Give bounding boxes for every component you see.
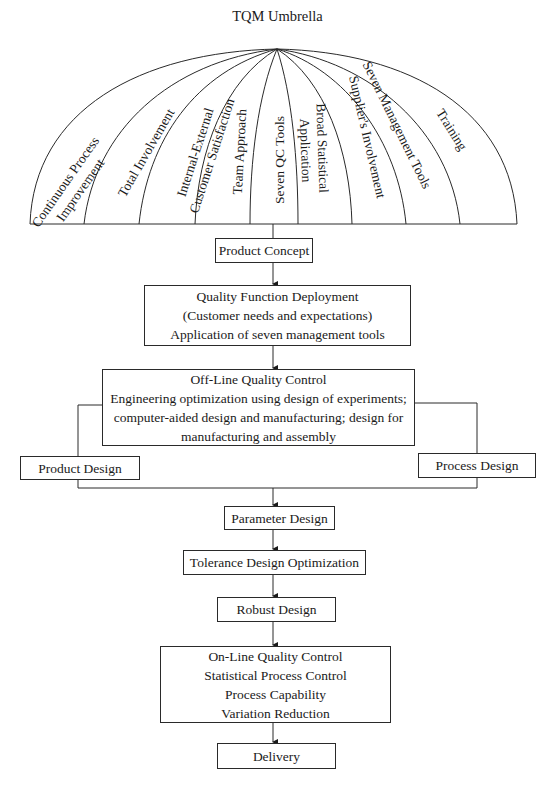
parameter-design-label: Parameter Design	[231, 509, 327, 528]
rib-label: Training	[433, 106, 470, 153]
robust-design-box: Robust Design	[217, 597, 336, 622]
offline-line: computer-aided design and manufacturing;…	[114, 408, 404, 427]
offline-quality-control-box: Off-Line Quality Control Engineering opt…	[102, 369, 415, 446]
svg-text:Broad Statistical Appl: Broad Statistical Application	[296, 103, 331, 197]
tolerance-design-label: Tolerance Design Optimization	[190, 553, 359, 572]
delivery-box: Delivery	[217, 743, 336, 769]
tolerance-design-box: Tolerance Design Optimization	[183, 550, 366, 575]
rib-label: Team Approach	[230, 108, 249, 195]
svg-text:Continuous Process Imp: Continuous Process Improvement	[29, 131, 118, 240]
product-concept-box: Product Concept	[215, 238, 313, 263]
rib-label: Seven QC Tools	[272, 116, 287, 204]
online-quality-control-box: On-Line Quality Control Statistical Proc…	[160, 646, 391, 723]
product-design-label: Product Design	[38, 459, 122, 478]
svg-text:Seven QC Tools: Seven QC Tools	[272, 116, 287, 204]
offline-line: Engineering optimization using design of…	[110, 389, 407, 408]
qfd-line: Application of seven management tools	[170, 325, 384, 344]
delivery-label: Delivery	[253, 747, 300, 766]
process-design-label: Process Design	[436, 456, 519, 475]
qfd-line: (Customer needs and expectations)	[183, 306, 372, 325]
rib-label: Application	[297, 118, 314, 182]
product-design-box: Product Design	[20, 456, 140, 480]
online-line: Statistical Process Control	[204, 666, 347, 685]
qfd-line: Quality Function Deployment	[197, 287, 359, 306]
robust-design-label: Robust Design	[237, 600, 317, 619]
tqm-diagram: TQM Umbrella	[0, 0, 555, 785]
svg-text:Training: Training	[433, 106, 470, 153]
svg-text:Internal-External Cust: Internal-External Customer Satisfaction	[170, 91, 237, 215]
online-line: Process Capability	[225, 685, 326, 704]
product-concept-label: Product Concept	[219, 241, 309, 260]
online-line: On-Line Quality Control	[208, 647, 342, 666]
parameter-design-box: Parameter Design	[224, 506, 335, 530]
offline-line: manufacturing and assembly	[181, 427, 336, 446]
online-line: Variation Reduction	[221, 704, 329, 723]
rib-label: Broad Statistical	[313, 103, 331, 193]
offline-line: Off-Line Quality Control	[190, 370, 326, 389]
svg-text:Team Approach: Team Approach	[230, 108, 249, 195]
process-design-box: Process Design	[418, 453, 536, 478]
qfd-box: Quality Function Deployment (Customer ne…	[144, 285, 411, 346]
